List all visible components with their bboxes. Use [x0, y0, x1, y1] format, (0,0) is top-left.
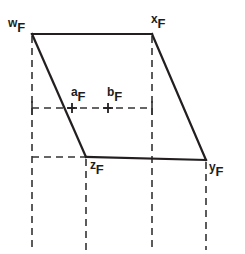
- vertex-label-z: zF: [90, 159, 104, 176]
- edge-x-y: [152, 34, 206, 160]
- dashed-horizontal-lines-group: [32, 108, 152, 157]
- vertex-label-y-sub: F: [215, 164, 223, 179]
- vertex-label-w-base: w: [8, 16, 17, 30]
- vertex-label-z-sub: F: [96, 162, 104, 177]
- figure-canvas: wF xF yF zF aF bF: [0, 0, 245, 254]
- marker-label-b-sub: F: [114, 89, 122, 104]
- marker-label-b: bF: [107, 86, 122, 103]
- marker-label-a: aF: [71, 86, 85, 103]
- vertex-label-w: wF: [8, 17, 25, 34]
- marker-point-b: [103, 103, 113, 113]
- marker-point-a: [67, 103, 77, 113]
- marker-points-group: [67, 103, 113, 113]
- vertex-label-x-sub: F: [157, 16, 165, 31]
- marker-label-a-sub: F: [77, 89, 85, 104]
- dashed-vertical-lines-group: [32, 36, 206, 250]
- vertex-label-w-sub: F: [17, 20, 25, 35]
- vertex-label-y: yF: [209, 161, 223, 178]
- edge-y-z: [86, 157, 206, 160]
- diagram-svg: [0, 0, 245, 254]
- vertex-label-x: xF: [151, 13, 165, 30]
